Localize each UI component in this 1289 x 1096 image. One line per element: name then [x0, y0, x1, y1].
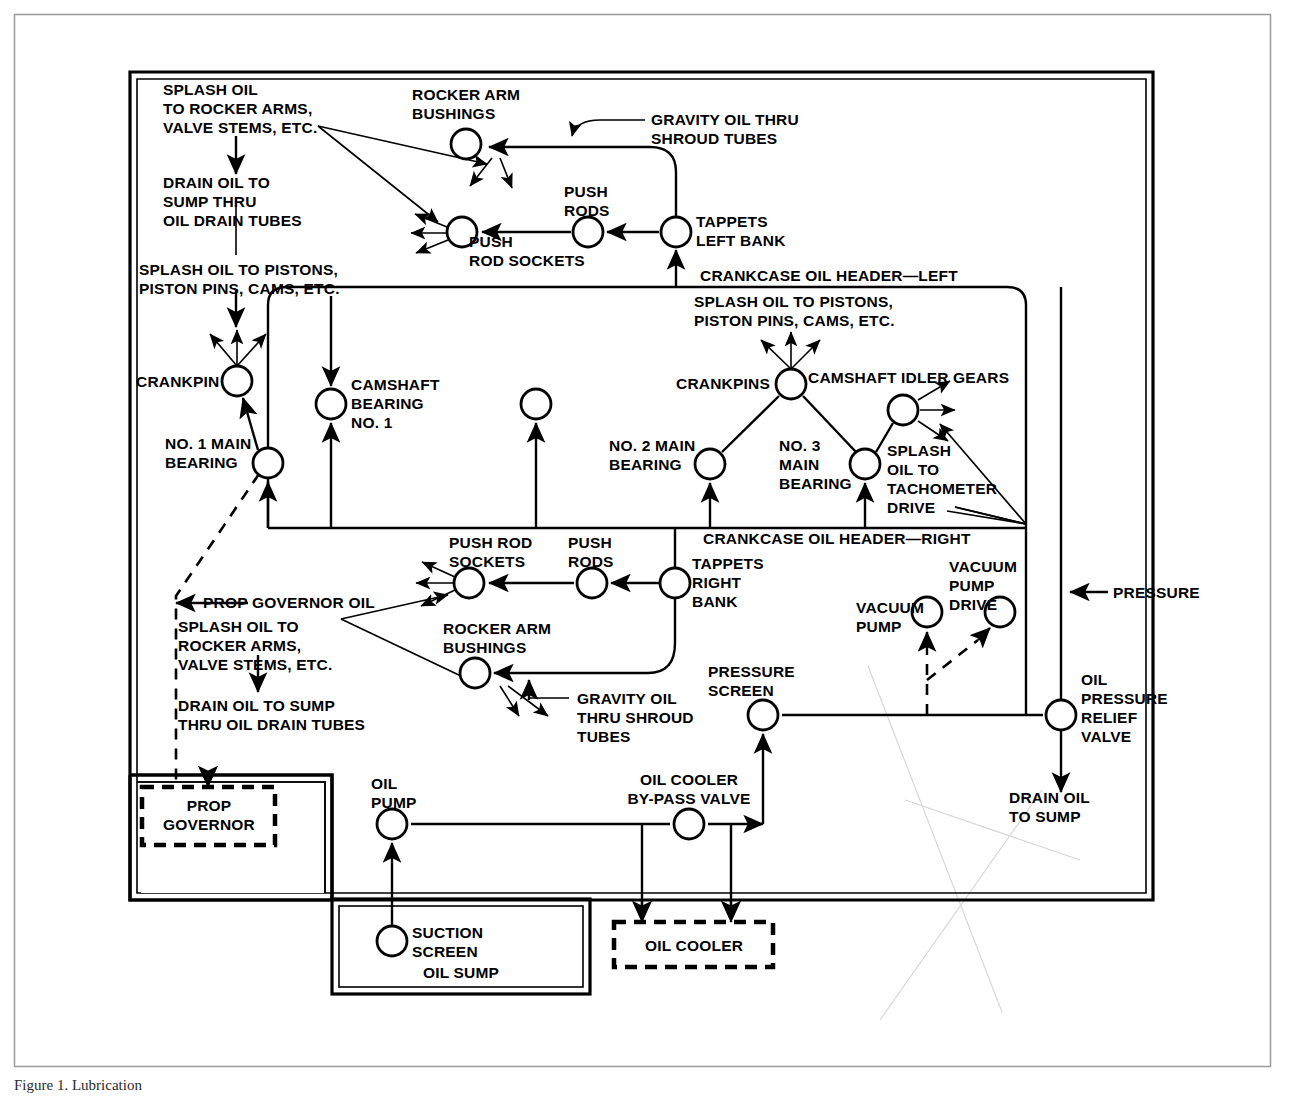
lubrication-schematic: SPLASH OILTO ROCKER ARMS,VALVE STEMS, ET… — [0, 0, 1289, 1096]
label-crankcase-header-left: CRANKCASE OIL HEADER—LEFT — [700, 267, 958, 284]
label-push-rod-sockets-bottom: PUSH RODSOCKETS — [449, 534, 532, 570]
right-crank-splash-burst — [761, 332, 820, 369]
label-tappets-left-bank: TAPPETSLEFT BANK — [696, 213, 786, 249]
label-oil-pressure-relief-valve: OILPRESSURERELIEFVALVE — [1081, 671, 1168, 745]
crankcase-oil-header-right-rail — [268, 528, 1026, 715]
label-rocker-arm-bushings-top: ROCKER ARMBUSHINGS — [412, 86, 520, 122]
node-camshaft-bearing-unlabeled — [521, 389, 551, 419]
label-gravity-oil-bottom: GRAVITY OILTHRU SHROUDTUBES — [577, 690, 694, 745]
node-tappets-left-bank — [661, 217, 691, 247]
rocker-bushing-burst-top — [470, 158, 512, 188]
node-oil-pressure-relief-valve — [1046, 700, 1076, 730]
label-oil-pump: OILPUMP — [371, 775, 417, 811]
label-crankcase-header-right: CRANKCASE OIL HEADER—RIGHT — [703, 530, 971, 547]
pushrod-socket-burst-top — [411, 214, 448, 253]
node-no2-main-bearing — [695, 449, 725, 479]
tachometer-leaders — [940, 424, 1026, 524]
label-splash-pistons-left: SPLASH OIL TO PISTONS,PISTON PINS, CAMS,… — [139, 261, 340, 297]
node-push-rod-sockets-bottom — [454, 568, 484, 598]
label-splash-pistons-right: SPLASH OIL TO PISTONS,PISTON PINS, CAMS,… — [694, 293, 895, 329]
node-crankpins — [776, 369, 806, 399]
label-rocker-arm-bushings-bottom: ROCKER ARMBUSHINGS — [443, 620, 551, 656]
vacuum-pump-dashed-drive — [927, 628, 990, 715]
oil-cooler-dashed-legs — [642, 901, 731, 922]
node-push-rods-bottom — [577, 568, 607, 598]
label-crankpins: CRANKPINS — [676, 375, 770, 392]
node-suction-screen — [377, 926, 407, 956]
crankpin-splash-burst — [210, 330, 266, 366]
rocker-bushing-burst-bottom — [500, 686, 548, 716]
label-oil-cooler: OIL COOLER — [645, 937, 743, 954]
idler-gear-burst — [918, 381, 955, 441]
label-pressure-screen: PRESSURESCREEN — [708, 663, 795, 699]
node-rocker-arm-bushings-top — [451, 129, 481, 159]
label-camshaft-idler-gears: CAMSHAFT IDLER GEARS — [808, 369, 1009, 386]
node-rocker-arm-bushings-bottom — [460, 658, 490, 688]
node-pressure-screen — [748, 700, 778, 730]
node-oil-pump — [377, 809, 407, 839]
label-oil-cooler-bypass-valve: OIL COOLERBY-PASS VALVE — [627, 771, 750, 807]
label-splash-tachometer: SPLASHOIL TOTACHOMETERDRIVE — [887, 442, 997, 516]
label-splash-rocker-left: SPLASH OILTO ROCKER ARMS,VALVE STEMS, ET… — [163, 81, 317, 136]
label-no2-main-bearing: NO. 2 MAINBEARING — [609, 437, 695, 473]
label-suction-screen: SUCTIONSCREEN — [412, 924, 483, 960]
node-camshaft-bearing-no1 — [316, 389, 346, 419]
node-oil-cooler-bypass-valve — [674, 809, 704, 839]
label-push-rods-top: PUSHRODS — [564, 183, 610, 219]
label-no1-main-bearing: NO. 1 MAINBEARING — [165, 435, 251, 471]
label-oil-sump: OIL SUMP — [423, 964, 499, 981]
label-crankpin: CRANKPIN — [136, 373, 219, 390]
node-tappets-right-bank — [660, 568, 690, 598]
node-crankpin — [222, 366, 252, 396]
node-push-rods-top — [573, 217, 603, 247]
label-pressure: PRESSURE — [1113, 584, 1200, 601]
node-no1-main-bearing — [253, 448, 283, 478]
label-no3-main-bearing: NO. 3MAINBEARING — [779, 437, 852, 492]
label-drain-oil-to-sump: DRAIN OILTO SUMP — [1009, 789, 1090, 825]
label-prop-governor-oil: PROP GOVERNOR OIL — [203, 594, 375, 611]
label-drain-sump-left: DRAIN OIL TOSUMP THRUOIL DRAIN TUBES — [163, 174, 302, 229]
figure-root: SPLASH OILTO ROCKER ARMS,VALVE STEMS, ET… — [0, 0, 1289, 1096]
label-push-rod-sockets-top: PUSHROD SOCKETS — [469, 233, 585, 269]
no2-main-to-crankpins — [722, 396, 779, 452]
label-push-rods-bottom: PUSHRODS — [568, 534, 614, 570]
label-tappets-right-bank: TAPPETSRIGHTBANK — [692, 555, 764, 610]
label-gravity-oil-top: GRAVITY OIL THRUSHROUD TUBES — [651, 111, 799, 147]
label-splash-rocker-bottom: SPLASH OIL TOROCKER ARMS,VALVE STEMS, ET… — [178, 618, 332, 673]
label-camshaft-bearing-no1: CAMSHAFTBEARINGNO. 1 — [351, 376, 440, 431]
node-camshaft-idler-gears — [888, 395, 918, 425]
node-no3-main-bearing — [850, 449, 880, 479]
label-drain-sump-bottom: DRAIN OIL TO SUMPTHRU OIL DRAIN TUBES — [178, 697, 365, 733]
figure-caption: Figure 1. Lubrication — [14, 1077, 142, 1094]
